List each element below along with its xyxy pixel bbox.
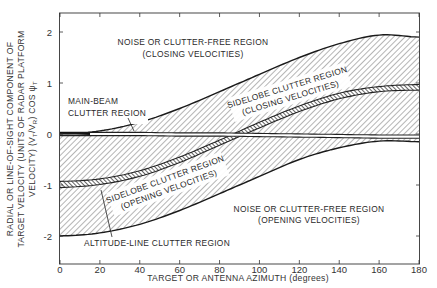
x-tick-label: 40 [134, 264, 145, 275]
y-title-line-2: TARGET VELOCITY (UNITS OF RADAR PLATFORM [16, 30, 26, 247]
y-tick-label: 1 [47, 78, 52, 89]
x-tick-label: 20 [95, 264, 106, 275]
x-axis-title: TARGET OR ANTENNA AZIMUTH (degrees) [147, 273, 329, 283]
x-tick-label: 140 [331, 264, 347, 275]
x-tick-label: 0 [57, 264, 62, 275]
label-closing-free-1: NOISE OR CLUTTER-FREE REGION [118, 37, 269, 47]
y-axis-title: RADIAL OR LINE-OF-SIGHT COMPONENT OF TAR… [5, 30, 38, 247]
y-title-line-1: RADIAL OR LINE-OF-SIGHT COMPONENT OF [5, 42, 15, 236]
y-title-line-3: VELOCITY) (VT/VR) COS ψT [27, 81, 38, 197]
x-tick-label: 160 [371, 264, 387, 275]
y-tick-label: -2 [44, 231, 52, 242]
label-opening-free-1: NOISE OR CLUTTER-FREE REGION [234, 204, 385, 214]
label-mainbeam-1: MAIN-BEAM [68, 96, 118, 106]
x-tick-label: 180 [411, 264, 427, 275]
y-tick-label: -1 [44, 180, 52, 191]
label-mainbeam-2: CLUTTER REGION [68, 108, 146, 118]
y-tick-label: 2 [47, 27, 52, 38]
label-closing-free-2: (CLOSING VELOCITIES) [143, 49, 244, 59]
label-altitude-line: ALTITUDE-LINE CLUTTER REGION [84, 238, 230, 248]
clutter-region-chart: 020406080100120140160180-2-1012 RADIAL O… [0, 0, 437, 288]
label-opening-free-2: (OPENING VELOCITIES) [258, 215, 360, 225]
y-tick-label: 0 [47, 129, 52, 140]
